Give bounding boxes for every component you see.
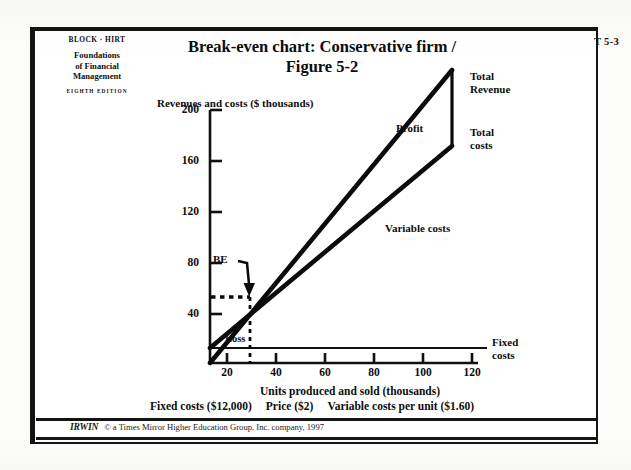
series-label-total-revenue-line2: Revenue <box>470 83 510 96</box>
param-price: Price ($2) <box>266 400 314 412</box>
x-tick-label-40: 40 <box>259 366 293 378</box>
x-axis-caption: Units produced and sold (thousands) <box>200 385 500 397</box>
annotation-profit: Profit <box>396 122 423 135</box>
y-tick-label-200: 200 <box>165 103 199 115</box>
x-tick-label-100: 100 <box>406 366 440 378</box>
series-label-total-costs-line1: Total <box>470 126 494 139</box>
break-even-arrow <box>238 261 255 297</box>
footer-brand: IRWIN <box>70 421 98 432</box>
x-axis-ticks <box>227 353 472 363</box>
param-fixed-costs: Fixed costs ($12,000) <box>150 400 252 412</box>
param-variable-cost: Variable costs per unit ($1.60) <box>327 400 474 412</box>
x-tick-label-20: 20 <box>210 366 244 378</box>
footer-rule-bottom <box>36 437 596 440</box>
y-axis-ticks <box>210 110 222 314</box>
cost-parameters-line: Fixed costs ($12,000)Price ($2)Variable … <box>52 400 572 412</box>
series-label-total-revenue-line1: Total <box>470 70 510 83</box>
x-tick-label-120: 120 <box>455 366 489 378</box>
x-tick-label-80: 80 <box>357 366 391 378</box>
footer-copyright: © a Times Mirror Higher Education Group,… <box>104 422 324 432</box>
y-tick-label-80: 80 <box>165 256 199 268</box>
total-revenue-line <box>210 70 452 363</box>
x-tick-label-60: 60 <box>308 366 342 378</box>
annotation-loss: Loss <box>225 333 245 345</box>
series-label-total-revenue: Total Revenue <box>470 70 510 95</box>
y-tick-label-160: 160 <box>165 154 199 166</box>
annotation-variable-costs: Variable costs <box>385 222 450 235</box>
slide-root: BLOCK · HIRT Foundations of Financial Ma… <box>0 0 631 470</box>
series-label-total-costs-line2: costs <box>470 139 494 152</box>
footer: IRWIN© a Times Mirror Higher Education G… <box>70 421 324 432</box>
annotation-break-even: BE <box>213 253 228 266</box>
series-label-total-costs: Total costs <box>470 126 494 151</box>
y-tick-label-40: 40 <box>165 307 199 319</box>
series-label-fixed-costs-line1: Fixed <box>492 336 518 349</box>
series-label-fixed-costs: Fixed costs <box>492 336 518 361</box>
series-label-fixed-costs-line2: costs <box>492 349 518 362</box>
y-tick-label-120: 120 <box>165 205 199 217</box>
